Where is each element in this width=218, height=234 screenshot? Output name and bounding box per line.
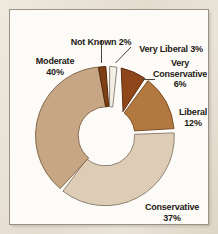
slice-very-liberal[interactable] [110, 66, 117, 107]
slice-label-liberal-value: 12% [167, 118, 207, 129]
slice-label-very-liberal: Very Liberal 3% [129, 44, 207, 55]
donut-chart: Moderate 40% Not Known 2% Very Liberal 3… [11, 11, 207, 223]
slice-label-liberal: Liberal 12% [167, 107, 207, 128]
chart-screenshot: Moderate 40% Not Known 2% Very Liberal 3… [0, 0, 218, 234]
slice-label-moderate-value: 40% [25, 67, 85, 78]
slice-label-moderate-name: Moderate [36, 56, 74, 66]
slice-label-very-conservative-line2: Conservative [147, 69, 207, 80]
slice-label-conservative: Conservative 37% [127, 202, 207, 223]
slice-label-conservative-value: 37% [127, 213, 207, 224]
slice-label-not-known: Not Known 2% [63, 37, 139, 48]
slice-label-very-conservative: Very Conservative 6% [147, 58, 207, 90]
slice-label-very-liberal-text: Very Liberal 3% [139, 44, 203, 54]
slice-label-very-conservative-line1: Very [171, 58, 189, 68]
slice-label-liberal-name: Liberal [179, 107, 207, 117]
slice-label-not-known-text: Not Known 2% [71, 37, 132, 47]
slice-label-very-conservative-value: 6% [147, 79, 207, 90]
slice-label-conservative-name: Conservative [145, 202, 199, 212]
slice-label-moderate: Moderate 40% [25, 56, 85, 77]
